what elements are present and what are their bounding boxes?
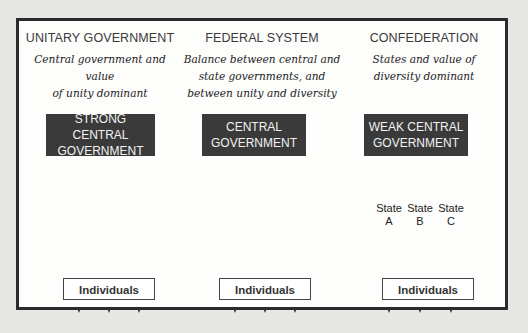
individuals-box-confederation: Individuals (382, 278, 474, 300)
individuals-box-federal: Individuals (219, 278, 311, 300)
state-c-line2: C (431, 215, 471, 228)
gov-box-line1: CENTRAL (211, 119, 297, 135)
federal-desc-line1: Balance between central and (181, 51, 343, 68)
confederation-description: States and value of diversity dominant (343, 51, 505, 85)
confederation-title: CONFEDERATION (343, 31, 505, 45)
central-government-box: CENTRAL GOVERNMENT (202, 114, 306, 156)
unitary-title: UNITARY GOVERNMENT (19, 31, 181, 45)
confederation-column: CONFEDERATION States and value of divers… (343, 21, 505, 307)
state-c-label: State C (431, 202, 471, 228)
gov-box-line1: STRONG CENTRAL (46, 111, 155, 143)
gov-box-line2: GOVERNMENT (369, 135, 464, 151)
state-c-line1: State (431, 202, 471, 215)
unitary-desc-line2: of unity dominant (19, 85, 181, 102)
gov-box-line2: GOVERNMENT (46, 143, 155, 159)
federal-desc-line2: state governments, and (181, 68, 343, 85)
unitary-description: Central government and value of unity do… (19, 51, 181, 102)
unitary-column: UNITARY GOVERNMENT Central government an… (19, 21, 181, 307)
federal-desc-line3: between unity and diversity (181, 85, 343, 102)
confederation-desc-line1: States and value of (343, 51, 505, 68)
individuals-box-unitary: Individuals (63, 278, 155, 300)
weak-central-government-box: WEAK CENTRAL GOVERNMENT (364, 114, 468, 156)
diagram-frame: UNITARY GOVERNMENT Central government an… (16, 18, 508, 310)
gov-box-line1: WEAK CENTRAL (369, 119, 464, 135)
federal-title: FEDERAL SYSTEM (181, 31, 343, 45)
confederation-desc-line2: diversity dominant (343, 68, 505, 85)
federal-column: FEDERAL SYSTEM Balance between central a… (181, 21, 343, 307)
unitary-desc-line1: Central government and value (19, 51, 181, 85)
federal-description: Balance between central and state govern… (181, 51, 343, 102)
gov-box-line2: GOVERNMENT (211, 135, 297, 151)
strong-central-government-box: STRONG CENTRAL GOVERNMENT (46, 114, 155, 156)
